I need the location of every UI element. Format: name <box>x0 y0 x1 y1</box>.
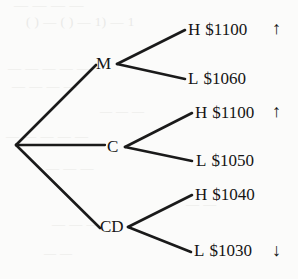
leaf-label-c-low: L$1050 <box>196 152 254 169</box>
leaf-value: $1100 <box>205 20 247 39</box>
tree-edges <box>0 0 298 279</box>
up-arrow-icon: ↑ <box>272 102 281 120</box>
leaf-value: $1040 <box>212 185 255 204</box>
leaf-tag: H <box>188 20 200 39</box>
leaf-tag: H <box>195 185 207 204</box>
node-label-m: M <box>96 55 111 72</box>
edge-m-to-leaf-2 <box>117 64 185 79</box>
up-arrow-icon: ↑ <box>272 19 281 37</box>
edge-root-to-cd <box>16 145 100 228</box>
down-arrow-icon: ↓ <box>272 241 281 259</box>
leaf-label-m-low: L$1060 <box>188 70 246 87</box>
leaf-label-cd-high: H$1040 <box>195 186 255 203</box>
leaf-value: $1050 <box>211 151 254 170</box>
edge-c-to-leaf-3 <box>125 113 192 147</box>
leaf-value: $1100 <box>212 103 254 122</box>
leaf-tag: L <box>188 69 198 88</box>
node-label-cd: CD <box>100 218 124 235</box>
leaf-tag: L <box>194 241 204 260</box>
leaf-label-cd-low: L$1030 <box>194 242 252 259</box>
leaf-value: $1030 <box>209 241 252 260</box>
leaf-tag: H <box>195 103 207 122</box>
node-label-c: C <box>107 138 118 155</box>
edge-cd-to-leaf-6 <box>128 227 191 252</box>
leaf-tag: L <box>196 151 206 170</box>
edge-root-to-m <box>16 65 96 145</box>
leaf-label-m-high: H$1100 <box>188 21 247 38</box>
edge-cd-to-leaf-5 <box>128 195 192 227</box>
leaf-value: $1060 <box>203 69 246 88</box>
edge-c-to-leaf-4 <box>125 147 192 161</box>
decision-tree-figure: — — — — ( ) — ( ) — 1) — 1 — — — — — — —… <box>0 0 298 279</box>
edge-m-to-leaf-1 <box>117 30 185 64</box>
leaf-label-c-high: H$1100 <box>195 104 254 121</box>
